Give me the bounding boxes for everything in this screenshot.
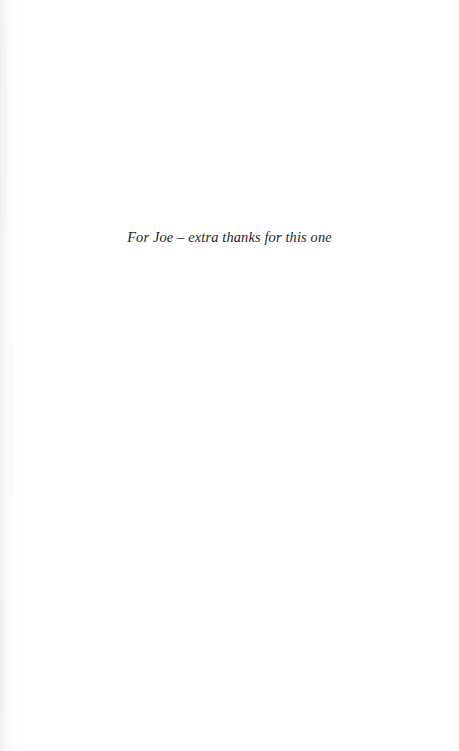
dedication-page: For Joe – extra thanks for this one	[0, 0, 459, 751]
scan-right-edge-tone	[445, 0, 459, 751]
scan-streak-artifacts	[0, 0, 40, 751]
dedication-text: For Joe – extra thanks for this one	[127, 228, 332, 246]
dedication-block: For Joe – extra thanks for this one	[0, 228, 459, 246]
scan-gutter-shadow	[0, 0, 26, 751]
